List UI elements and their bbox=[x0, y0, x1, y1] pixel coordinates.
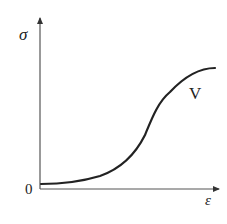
stress-strain-chart: σ ε 0 V bbox=[0, 0, 227, 224]
y-axis-label: σ bbox=[19, 25, 28, 44]
origin-label: 0 bbox=[25, 181, 33, 197]
x-axis-label: ε bbox=[205, 192, 211, 208]
curve-label: V bbox=[189, 84, 202, 103]
